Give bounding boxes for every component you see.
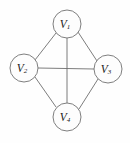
edge-v3-v4 [79, 79, 98, 109]
node-v3[interactable]: V3 [94, 55, 122, 83]
node-v2[interactable]: V2 [10, 54, 38, 82]
node-v1-label-sub: 1 [67, 23, 71, 31]
edge-v1-v3 [78, 32, 97, 61]
node-v3-label-sub: 3 [107, 68, 112, 76]
node-v4[interactable]: V4 [53, 103, 81, 131]
edge-v1-v2 [35, 33, 56, 60]
edge-v2-v3 [38, 68, 94, 69]
edge-group [35, 32, 98, 109]
edge-v2-v4 [35, 77, 56, 107]
node-v4-label-sub: 4 [67, 116, 71, 124]
node-v1[interactable]: V1 [53, 10, 81, 38]
graph-canvas: V1 V2 V3 V4 [0, 0, 130, 143]
node-v2-label-sub: 2 [24, 67, 28, 75]
graph-diagram: V1 V2 V3 V4 [0, 0, 130, 143]
